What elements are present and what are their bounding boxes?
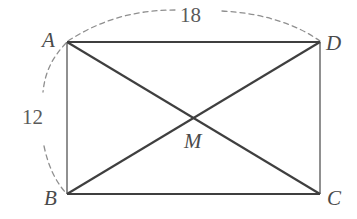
arc-top-18-right-segment (222, 11, 320, 41)
dimension-label-top: 18 (180, 5, 201, 26)
vertex-label-a: A (42, 30, 55, 51)
vertex-label-b: B (44, 188, 57, 209)
geometry-figure: A D B C M 18 12 (0, 0, 357, 219)
intersection-label-m: M (184, 131, 202, 152)
dimension-label-left: 12 (22, 107, 43, 128)
vertex-label-c: C (327, 188, 341, 209)
arc-top-18-left-segment (68, 10, 176, 41)
vertex-label-d: D (326, 33, 341, 54)
